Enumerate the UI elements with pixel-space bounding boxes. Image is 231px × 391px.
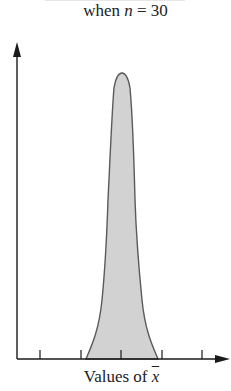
density-plot [0,0,231,391]
x-axis-label: Values of x [0,366,231,388]
x-label-text: Values of [84,367,152,386]
x-ticks [40,350,202,359]
y-axis-arrow-icon [13,42,21,57]
density-curve [86,73,158,359]
x-bar-symbol: x [152,367,160,386]
x-axis-arrow-icon [215,355,230,363]
